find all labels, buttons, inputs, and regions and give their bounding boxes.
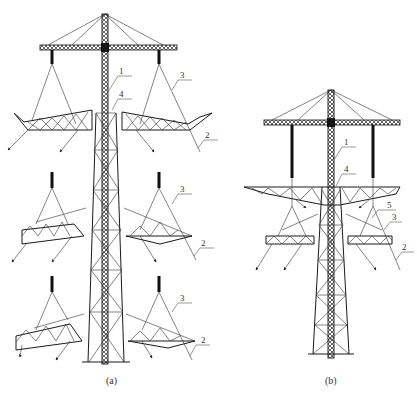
label-2-middle-a: 2 [201, 238, 206, 248]
label-2-upper-a: 2 [205, 130, 210, 140]
lower-crossarm-left-a [16, 292, 84, 360]
label-1-a: 1 [119, 66, 124, 76]
label-3-upper-a: 3 [180, 70, 185, 80]
label-3-middle-a: 3 [180, 184, 185, 194]
caption-a: (a) [106, 375, 117, 387]
tower-erection-diagram: 1 4 3 2 3 2 3 2 (a) [0, 0, 417, 397]
callouts-a: 1 4 3 2 3 2 3 2 [108, 66, 218, 356]
label-3-lower-a: 3 [180, 293, 185, 303]
panel-b: 1 4 5 3 2 (b) [244, 90, 414, 387]
crane-boom-a [40, 14, 177, 52]
lower-crossarm-left-b [256, 206, 318, 270]
label-2-b: 2 [402, 242, 407, 252]
panel-a: 1 4 3 2 3 2 3 2 (a) [8, 14, 218, 387]
label-3-b: 3 [392, 212, 397, 222]
label-2-lower-a: 2 [201, 335, 206, 345]
upper-crossarm-right-a [122, 64, 212, 152]
middle-crossarm-left-a [12, 188, 86, 262]
label-5-b: 5 [387, 200, 392, 210]
caption-b: (b) [325, 375, 337, 387]
lifting-mast-b [328, 90, 334, 358]
label-4-b: 4 [344, 164, 349, 174]
lower-crossarm-right-a [126, 292, 195, 360]
label-4-a: 4 [119, 89, 124, 99]
upper-crossarm-left-a [8, 64, 92, 152]
lifting-mast-a [102, 14, 108, 364]
label-1-b: 1 [344, 137, 349, 147]
middle-crossarm-right-a [124, 188, 196, 262]
